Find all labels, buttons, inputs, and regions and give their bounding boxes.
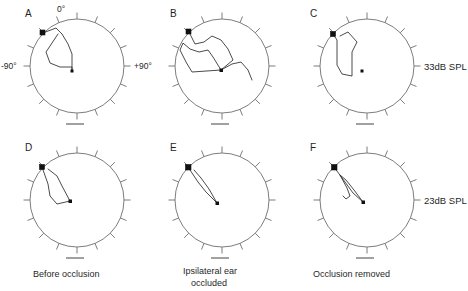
spl-label-row-2: 23dB SPL: [424, 195, 467, 206]
caption-col-1-line-1: Before occlusion: [33, 269, 100, 279]
panel-d-letter: D: [25, 142, 32, 153]
polar-trajectory-figure: A 0° -90° +90° B: [0, 0, 468, 291]
panel-a-end-marker: [71, 70, 74, 73]
panel-a-letter: A: [25, 8, 32, 19]
panel-c-end-marker: [361, 70, 364, 73]
panel-e-start-marker: [186, 165, 192, 171]
caption-col-3-line-1: Occlusion removed: [313, 269, 390, 279]
panel-b-letter: B: [170, 8, 177, 19]
caption-col-2-line-2: occluded: [191, 278, 227, 288]
axis-label-left: -90°: [1, 61, 17, 71]
panel-f-start-marker: [332, 165, 338, 171]
panel-d-end-marker: [69, 200, 73, 204]
panel-f-letter: F: [310, 142, 316, 153]
panel-f-end-marker: [362, 201, 366, 205]
figure-background: [0, 0, 468, 291]
axis-label-top: 0°: [57, 4, 65, 14]
panel-a-start-marker: [40, 30, 45, 35]
panel-c-start-marker: [331, 32, 336, 37]
panel-e-end-marker: [216, 202, 220, 206]
panel-b-start-marker: [186, 29, 191, 34]
panel-e-letter: E: [170, 142, 177, 153]
axis-label-right: +90°: [134, 61, 152, 71]
caption-col-2-line-1: Ipsilateral ear: [183, 266, 237, 276]
panel-b-end-marker: [220, 69, 224, 73]
spl-label-row-1: 33dB SPL: [424, 61, 467, 72]
panel-c-letter: C: [310, 8, 317, 19]
panel-d-start-marker: [40, 165, 45, 170]
